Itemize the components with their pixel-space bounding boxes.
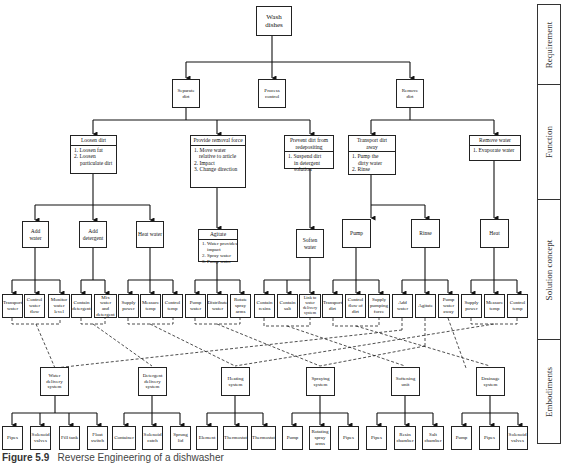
- subconcept-supply-power-2: Supply power: [461, 294, 482, 318]
- function-item: particulate dirt: [74, 160, 113, 167]
- part-pump: Pump: [282, 426, 303, 450]
- diagram-canvas: Wash dishes Separate dirt Process contro…: [0, 0, 568, 466]
- part-solenoid-catch: Solenoid catch: [142, 426, 163, 450]
- part-pipes-4: Pipes: [479, 426, 500, 450]
- subconcept-contain-detergent: Contain detergent: [71, 294, 92, 318]
- function-remove-water: Remove water 1. Evaporate water: [469, 135, 521, 161]
- function-provide-removal-force: Provide removal force 1. Move water rela…: [190, 135, 246, 188]
- subconcept-contain-salt: Contain salt: [277, 294, 298, 318]
- function-item: 2. Loosen: [74, 153, 113, 160]
- subconcept-monitor-water-level: Monitor water level: [48, 294, 70, 318]
- function-title: Provide removal force: [191, 136, 245, 146]
- subconcept-control-temp: Control temp: [162, 294, 183, 318]
- figure-caption-text: Reverse Engineering of a dishwasher: [58, 452, 224, 463]
- embodiment-heating-system: Heating system: [221, 367, 250, 396]
- req-process-control: Process control: [258, 79, 286, 108]
- function-item: relative to article: [194, 153, 242, 160]
- function-item: 1. Move water: [194, 147, 242, 154]
- function-title: Loosen dirt: [71, 136, 116, 146]
- level-label: Requirement: [544, 21, 554, 68]
- level-requirement: Requirement: [538, 5, 560, 85]
- embodiment-drainage-system: Drainage system: [476, 367, 505, 396]
- part-rotating-spray-arms: Rotating spray arms: [309, 426, 331, 450]
- part-float-switch: Float switch: [87, 426, 108, 450]
- subconcept-contain-resins: Contain resins: [254, 294, 275, 318]
- subconcept-rotate-spray-arms: Rotate spray arms: [230, 294, 251, 318]
- function-item: 3. Change direction: [194, 166, 242, 173]
- part-salt-chamber: Salt chamber: [422, 426, 444, 450]
- function-prevent-redepositing: Prevent dirt from redepositing 1. Suspen…: [284, 135, 334, 169]
- subconcept-control-temp-2: Control temp: [507, 294, 528, 318]
- function-title: Remove water: [470, 136, 520, 146]
- function-item: 1. Pump the: [352, 153, 392, 160]
- level-sidebar: Requirement Function Solution concept Em…: [537, 4, 561, 444]
- part-fill-tank: Fill tank: [59, 426, 80, 450]
- part-pipes-3: Pipes: [366, 426, 387, 450]
- concept-item: 2. Spray water: [202, 253, 234, 259]
- subconcept-measure-temp-2: Measure temp: [484, 294, 505, 318]
- embodiment-water-delivery-system: Water delivery system: [40, 367, 69, 396]
- part-element: Element: [196, 426, 218, 450]
- concept-agitate: Agitate 1. Water provides impact 2. Spra…: [198, 229, 238, 262]
- req-separate-dirt: Separate dirt: [172, 79, 200, 108]
- subconcept-pump-water-away: Pump water away: [438, 294, 459, 318]
- part-pump-2: Pump: [451, 426, 472, 450]
- subconcept-pump-water: Pump water: [185, 294, 206, 318]
- level-label: Solution concept: [544, 239, 554, 300]
- part-solenoid-valves-2: Solenoid valves: [507, 426, 528, 450]
- level-label: Embodiments: [544, 367, 554, 417]
- function-transport-dirt-away: Transport dirt away 1. Pump the dirty wa…: [348, 135, 396, 175]
- concept-add-detergent: Add detergent: [79, 221, 107, 248]
- figure-label: Figure 5.9: [2, 452, 49, 463]
- part-thermostat-2: Thermostat: [251, 426, 276, 450]
- embodiment-spraying-system: Spraying system: [306, 367, 335, 396]
- subconcept-mix-water-detergent: Mix water and detergent: [94, 294, 117, 318]
- subconcept-supply-pumping-force: Supply pumping force: [368, 294, 390, 318]
- concept-add-water: Add water: [22, 221, 49, 248]
- part-container: Container: [112, 426, 136, 450]
- subconcept-supply-power: Supply power: [118, 294, 139, 318]
- req-root-wash-dishes: Wash dishes: [256, 6, 292, 36]
- function-item: in detergent: [288, 160, 330, 167]
- concept-item: 3. Pump water: [202, 259, 234, 265]
- req-remove-dirt: Remove dirt: [396, 79, 424, 108]
- concept-pump: Pump: [342, 219, 371, 248]
- function-loosen-dirt: Loosen dirt 1. Loosen fat 2. Loosen part…: [70, 135, 117, 174]
- subconcept-add-water: Add water: [392, 294, 413, 318]
- subconcept-measure-temp: Measure temp: [140, 294, 161, 318]
- embodiment-softening-unit: Softening unit: [391, 367, 420, 396]
- level-embodiments: Embodiments: [538, 340, 560, 443]
- part-sprung-lid: Sprung lid: [170, 426, 191, 450]
- level-label: Function: [544, 126, 554, 158]
- subconcept-control-flow-of-dirt: Control flow of dirt: [345, 294, 366, 318]
- part-resin-chamber: Resin chamber: [394, 426, 416, 450]
- function-title: Prevent dirt from redepositing: [285, 136, 333, 152]
- level-solution-concept: Solution concept: [538, 200, 560, 340]
- concept-soften-water: Soften water: [296, 229, 324, 258]
- function-item: 2. Impact: [194, 160, 242, 167]
- part-solenoid-valves: Solenoid valves: [30, 426, 51, 450]
- figure-caption: Figure 5.9 Reverse Engineering of a dish…: [2, 452, 224, 463]
- subconcept-link-water-delivery: Link to water delivery system: [299, 294, 321, 318]
- subconcept-distribute-water: Distribute water: [207, 294, 228, 318]
- function-item: dirty water: [352, 160, 392, 167]
- level-function: Function: [538, 85, 560, 200]
- function-item: 1. Suspend dirt: [288, 153, 330, 160]
- concept-item: 1. Water provides: [202, 241, 234, 247]
- function-item: 1. Evaporate water: [473, 147, 517, 154]
- part-pipes: Pipes: [2, 426, 23, 450]
- concept-title: Agitate: [199, 230, 237, 240]
- function-item: 1. Loosen fat: [74, 147, 113, 154]
- function-title: Transport dirt away: [349, 136, 395, 152]
- concept-heat-water: Heat water: [136, 221, 164, 248]
- embodiment-detergent-delivery-system: Detergent delivery system: [138, 367, 167, 396]
- concept-rinse: Rinse: [411, 219, 440, 248]
- subconcept-agitate: Agitate: [415, 294, 436, 318]
- subconcept-control-water-flow: Control water flow: [24, 294, 45, 318]
- concept-heat: Heat: [480, 219, 509, 248]
- subconcept-transport-water: Transport water: [2, 294, 23, 318]
- part-pipes-2: Pipes: [338, 426, 359, 450]
- function-item: 2. Rinse: [352, 166, 392, 173]
- subconcept-transport-dirt: Transport dirt: [322, 294, 343, 318]
- part-thermostat-1: Thermostat: [223, 426, 248, 450]
